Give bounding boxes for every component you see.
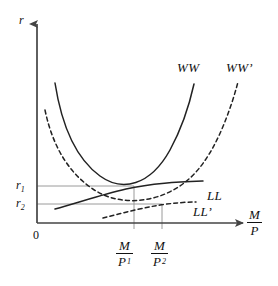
curve-label-ww-prime: WW’: [226, 61, 253, 74]
x-tick-mp1-denominator-row: P1: [116, 255, 133, 268]
plot-canvas: [0, 0, 278, 286]
x-tick-mp1-denominator: P: [118, 255, 126, 268]
y-tick-r2-subscript: 2: [21, 203, 25, 212]
y-axis-label: r: [19, 14, 24, 26]
x-tick-mp1-numerator: M: [117, 239, 132, 252]
x-axis-label-numerator: M: [247, 208, 262, 221]
x-tick-mp1-subscript: 1: [126, 258, 131, 267]
x-axis-label-denominator: P: [248, 224, 260, 237]
y-tick-r2: r2: [16, 197, 25, 212]
curve-label-ll-prime: LL’: [193, 205, 212, 218]
curve-label-ww: WW: [177, 61, 199, 74]
x-tick-mp2-denominator: P: [153, 255, 161, 268]
y-tick-r1-subscript: 1: [21, 185, 25, 194]
origin-label: 0: [33, 229, 39, 241]
x-tick-mp2-numerator: M: [152, 239, 167, 252]
x-tick-mp2-subscript: 2: [161, 258, 166, 267]
y-tick-r1: r1: [16, 179, 25, 194]
x-tick-mp2-denominator-row: P2: [151, 255, 168, 268]
curve-WW-prime: [45, 82, 238, 201]
curve-WW: [55, 83, 194, 184]
economics-diagram: r 0 r1 r2 WW WW’ LL LL’ M P M P1 M P2: [0, 0, 278, 286]
curve-label-ll: LL: [207, 189, 222, 202]
x-axis-label: M P: [247, 208, 262, 238]
x-tick-mp1: M P1: [116, 239, 133, 269]
x-tick-mp2: M P2: [151, 239, 168, 269]
